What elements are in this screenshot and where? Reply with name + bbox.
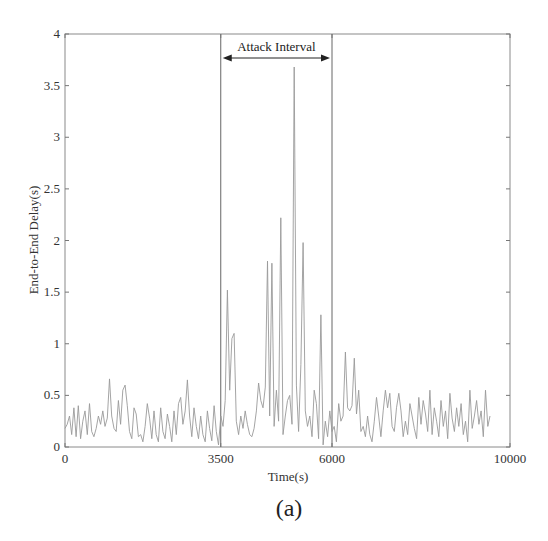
x-tick-label: 6000 (319, 451, 345, 466)
y-tick-label: 3 (54, 129, 61, 144)
y-tick-label: 2 (54, 233, 61, 248)
plot-frame (65, 34, 510, 447)
figure-caption: (a) (276, 495, 303, 521)
y-axis-label: End-to-End Delay(s) (26, 186, 41, 295)
y-tick-label: 1 (54, 336, 61, 351)
attack-interval-annotation: Attack Interval (223, 39, 330, 62)
x-axis-label: Time(s) (268, 469, 309, 484)
y-axis-ticks: 00.511.522.533.54 (44, 26, 510, 454)
annotation-label: Attack Interval (237, 39, 316, 54)
attack-interval-lines (221, 34, 332, 447)
y-tick-label: 0.5 (44, 387, 60, 402)
x-tick-label: 0 (62, 451, 69, 466)
y-tick-label: 4 (54, 26, 61, 41)
y-tick-label: 0 (54, 439, 61, 454)
x-tick-label: 10000 (494, 451, 527, 466)
y-tick-label: 3.5 (44, 78, 60, 93)
delay-line-chart: Attack Interval 00.511.522.533.54 035006… (0, 0, 548, 541)
delay-series-line (65, 67, 490, 445)
y-tick-label: 1.5 (44, 284, 60, 299)
y-tick-label: 2.5 (44, 181, 60, 196)
x-tick-label: 3500 (208, 451, 234, 466)
